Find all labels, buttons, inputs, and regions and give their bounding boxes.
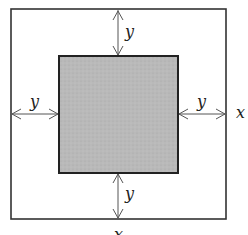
left-gap-label: y bbox=[29, 92, 40, 111]
bottom-gap-arrow bbox=[113, 174, 123, 218]
right-side-label: x bbox=[236, 103, 245, 122]
bottom-side-label: x bbox=[114, 225, 123, 235]
bottom-gap-label: y bbox=[124, 184, 135, 203]
top-gap-label: y bbox=[124, 22, 135, 41]
square-border-diagram: y y y y x x bbox=[0, 0, 248, 235]
top-gap-arrow bbox=[113, 10, 123, 55]
inner-square bbox=[59, 56, 178, 173]
right-gap-label: y bbox=[196, 92, 207, 111]
